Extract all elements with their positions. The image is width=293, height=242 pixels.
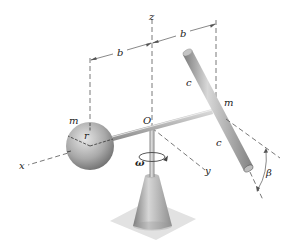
- z-axis-label: z: [148, 11, 155, 22]
- dimension-b-left-label: b: [117, 47, 123, 58]
- beta-label: β: [265, 167, 272, 178]
- rod-upper-c-label: c: [186, 77, 192, 88]
- omega-label: ω: [135, 157, 145, 168]
- rod-axis-extension: [250, 172, 263, 200]
- x-axis-label: x: [19, 160, 25, 171]
- rod-mass-label: m: [224, 97, 233, 108]
- y-axis-line: [152, 128, 205, 170]
- sphere-mass-label: m: [69, 115, 78, 126]
- dimension-b-right-label: b: [180, 28, 186, 39]
- tilted-rod: [182, 48, 254, 174]
- origin-label: O: [143, 115, 151, 126]
- y-axis-label: y: [204, 165, 211, 176]
- vertical-shaft: [150, 129, 155, 177]
- cone-pedestal: [133, 174, 172, 231]
- rod-lower-c-label: c: [216, 137, 222, 148]
- rotating-assembly-diagram: z x y O b b m r m c c ω β: [0, 0, 293, 242]
